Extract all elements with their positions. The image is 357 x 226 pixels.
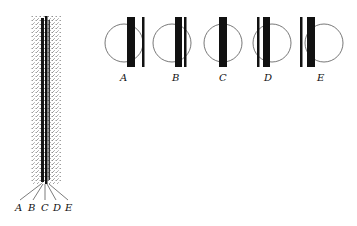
thin-bar	[257, 17, 260, 67]
panel-label-d: D	[263, 72, 272, 83]
leader-lines	[20, 184, 68, 200]
column-labels: A B C D E	[14, 202, 73, 213]
panel-b: B	[153, 17, 191, 83]
panel-d: D	[253, 17, 291, 83]
column-label-b: B	[27, 202, 35, 213]
diagram-canvas: A B C D E A B C D E	[0, 0, 357, 226]
panel-label-a: A	[119, 72, 127, 83]
band-d	[49, 20, 51, 180]
panel-a: A	[105, 17, 145, 83]
panel-label-b: B	[171, 72, 179, 83]
column-label-e: E	[64, 202, 73, 213]
thin-bar	[142, 17, 145, 67]
thick-bar	[127, 17, 135, 67]
panel-c: C	[204, 17, 242, 83]
thick-bar	[263, 17, 270, 67]
stained-column	[31, 16, 61, 184]
column-label-a: A	[14, 202, 22, 213]
panel-e: E	[300, 17, 343, 83]
column-label-d: D	[52, 202, 61, 213]
thin-bar	[300, 17, 303, 67]
panel-label-c: C	[219, 72, 227, 83]
band-b	[41, 18, 44, 182]
circle-icon	[105, 24, 143, 62]
panel-label-e: E	[316, 72, 325, 83]
thin-bar	[184, 17, 187, 67]
thick-bar	[307, 17, 315, 67]
band-c	[45, 16, 48, 184]
thick-bar	[219, 17, 227, 67]
column-label-c: C	[41, 202, 49, 213]
thick-bar	[175, 17, 182, 67]
